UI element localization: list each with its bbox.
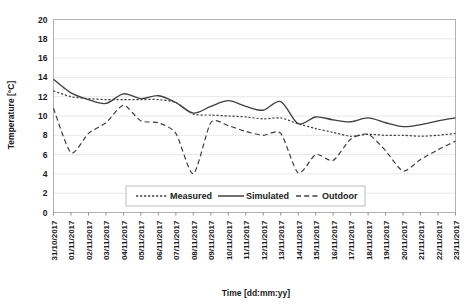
y-tick-4: 4	[43, 169, 48, 179]
legend-label-measured: Measured	[170, 191, 212, 201]
x-tick-label-19: 19/11/2017	[382, 220, 391, 260]
x-tick-label-23: 23/11/2017	[452, 220, 461, 260]
x-tick-label-6: 06/11/2017	[155, 220, 164, 260]
x-tick-label-9: 09/11/2017	[207, 220, 216, 260]
x-tick-label-18: 18/11/2017	[365, 220, 374, 260]
temperature-line-chart: 20181614121086420 31/10/201701/11/201702…	[0, 0, 467, 307]
legend-label-simulated: Simulated	[246, 191, 289, 201]
x-tick-label-14: 14/11/2017	[295, 220, 304, 260]
y-tick-0: 0	[43, 208, 48, 218]
chart-legend: MeasuredSimulatedOutdoor	[126, 186, 365, 206]
x-tick-label-8: 08/11/2017	[190, 220, 199, 260]
y-tick-10: 10	[38, 111, 48, 121]
y-tick-12: 12	[38, 92, 48, 102]
y-axis-title: Temperature [°C]	[6, 81, 16, 150]
x-tick-label-20: 20/11/2017	[400, 220, 409, 260]
x-tick-label-21: 21/11/2017	[417, 220, 426, 260]
y-tick-16: 16	[38, 53, 48, 63]
x-tick-label-2: 02/11/2017	[85, 220, 94, 260]
y-tick-18: 18	[38, 34, 48, 44]
x-tick-label-10: 10/11/2017	[225, 220, 234, 260]
x-tick-label-17: 17/11/2017	[347, 220, 356, 260]
x-tick-label-12: 12/11/2017	[260, 220, 269, 260]
x-tick-label-1: 01/11/2017	[67, 220, 76, 260]
x-tick-label-16: 16/11/2017	[330, 220, 339, 260]
x-axis-title: Time [dd:mm:yy]	[222, 288, 290, 298]
x-tick-label-13: 13/11/2017	[277, 220, 286, 260]
legend-label-outdoor: Outdoor	[322, 191, 358, 201]
x-tick-label-0: 31/10/2017	[50, 220, 59, 261]
x-tick-label-7: 07/11/2017	[172, 220, 181, 260]
x-tick-label-15: 15/11/2017	[312, 220, 321, 260]
y-tick-20: 20	[38, 15, 48, 25]
x-tick-label-5: 05/11/2017	[137, 220, 146, 260]
y-tick-8: 8	[43, 130, 48, 140]
y-tick-2: 2	[43, 188, 48, 198]
y-tick-14: 14	[38, 72, 48, 82]
x-tick-label-22: 22/11/2017	[435, 220, 444, 260]
y-tick-6: 6	[43, 150, 48, 160]
chart-canvas: 20181614121086420 31/10/201701/11/201702…	[0, 0, 467, 307]
x-tick-label-3: 03/11/2017	[102, 220, 111, 260]
x-tick-label-4: 04/11/2017	[120, 220, 129, 260]
x-tick-label-11: 11/11/2017	[242, 220, 251, 260]
